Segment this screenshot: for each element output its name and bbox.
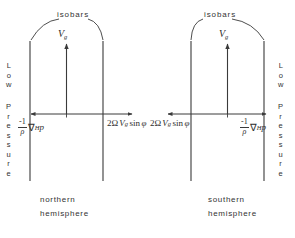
- pressure-gradient-force-label-north: -1 ρ ∇Hp: [18, 118, 44, 136]
- pgf-variable-south: p: [261, 122, 266, 132]
- pgf-fraction-south: -1 ρ: [240, 118, 249, 136]
- coriolis-force-label-north: 2ΩVgsinφ: [107, 118, 146, 128]
- pgf-fraction-north: -1 ρ: [18, 118, 27, 136]
- caption-northern-line2: hemisphere: [40, 210, 89, 218]
- margin-letter: e: [6, 170, 10, 180]
- coriolis-wind-subscript-south: g: [168, 120, 171, 127]
- isobars-label-south: isobars: [204, 11, 236, 19]
- coriolis-force-label-south: 2ΩVgsinφ: [150, 118, 189, 128]
- caption-northern-line1: northern: [40, 196, 75, 204]
- low-pressure-label-south-low: L o w: [278, 62, 283, 91]
- isobars-leader-right-north: [88, 19, 103, 40]
- sin-operator-south: sin: [172, 118, 183, 128]
- isobars-label-north: isobars: [57, 11, 89, 19]
- wind-vector-subscript-north: g: [64, 33, 67, 40]
- pgf-variable-north: p: [39, 122, 44, 132]
- coriolis-wind-subscript-north: g: [125, 120, 128, 127]
- margin-letter: e: [278, 170, 282, 180]
- low-pressure-label-south-pressure: P r e s s u r e: [278, 103, 283, 179]
- pressure-gradient-force-label-south: -1 ρ ∇Hp: [240, 118, 266, 136]
- caption-southern-line1: southern: [208, 196, 245, 204]
- low-pressure-label-north-pressure: P r e s s u r e: [6, 103, 11, 179]
- caption-southern-line2: hemisphere: [208, 210, 257, 218]
- panel-southern-lines: [168, 19, 266, 181]
- low-pressure-label-north-low: L o w: [6, 62, 11, 91]
- geostrophic-balance-figure: isobars Vg L o w P r e s s u r e -1 ρ ∇H…: [0, 0, 295, 238]
- isobars-leader-left-south: [191, 19, 203, 40]
- pgf-denominator-north: ρ: [19, 128, 25, 137]
- pgf-denominator-south: ρ: [241, 128, 247, 137]
- isobars-leader-right-south: [232, 19, 264, 40]
- wind-vector-label-south: Vg: [219, 28, 228, 40]
- omega-symbol-north: Ω: [112, 118, 119, 128]
- nabla-icon-south: ∇: [250, 122, 257, 133]
- sin-operator-north: sin: [129, 118, 140, 128]
- margin-letter: w: [278, 81, 283, 91]
- phi-symbol-north: φ: [141, 118, 146, 128]
- phi-symbol-south: φ: [184, 118, 189, 128]
- wind-vector-label-north: Vg: [58, 28, 67, 40]
- panel-northern-lines: [30, 19, 132, 181]
- margin-letter: w: [6, 81, 11, 91]
- wind-vector-subscript-south: g: [225, 33, 228, 40]
- omega-symbol-south: Ω: [155, 118, 162, 128]
- nabla-icon-north: ∇: [28, 122, 35, 133]
- isobars-leader-left-north: [31, 19, 59, 40]
